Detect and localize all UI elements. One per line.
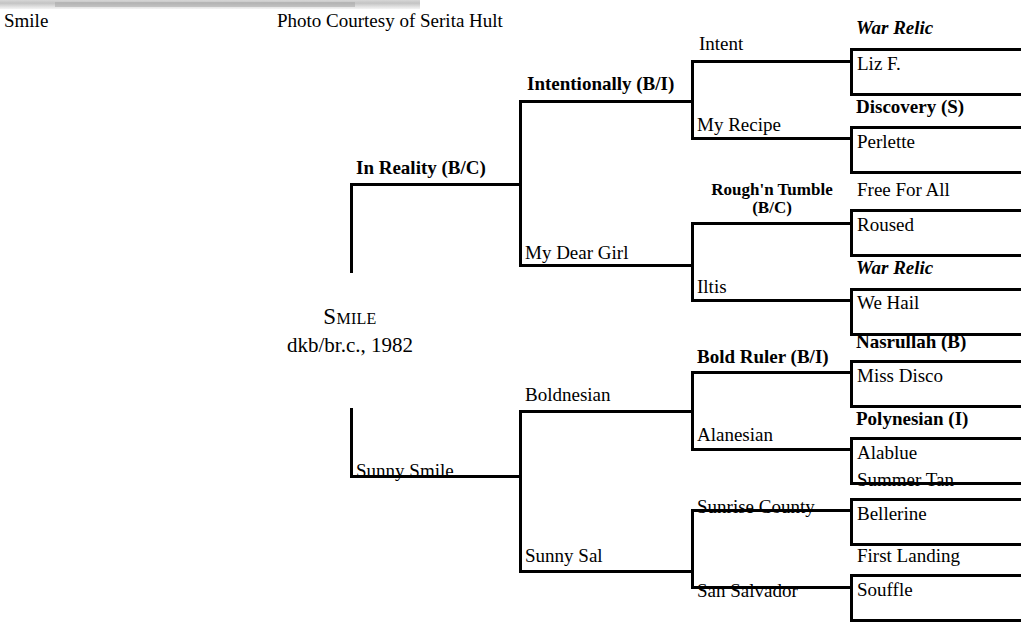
gen4-liz-f: Liz F. bbox=[857, 54, 901, 74]
gen4-edge-5 bbox=[850, 360, 853, 408]
subject-details: dkb/br.c., 1982 bbox=[255, 332, 445, 358]
gen3-bar-roughntumble bbox=[691, 222, 853, 225]
gen4-edge-2 bbox=[850, 126, 853, 174]
gen4-nasrullah: Nasrullah (B) bbox=[856, 332, 966, 352]
gen3-roughn-tumble-line1: Rough'n Tumble bbox=[711, 180, 832, 199]
gen4-polynesian: Polynesian (I) bbox=[856, 409, 968, 429]
gen4-rule-6a bbox=[850, 437, 1021, 440]
gen2-upper-bracket bbox=[519, 100, 522, 267]
gen1-bottom-stem bbox=[350, 408, 353, 478]
gen3-alanesian: Alanesian bbox=[697, 425, 773, 445]
gen3-bracket-4 bbox=[691, 509, 694, 589]
gen3-my-recipe: My Recipe bbox=[697, 115, 781, 135]
gen4-miss-disco: Miss Disco bbox=[857, 366, 943, 386]
gen4-rule-5a bbox=[850, 360, 1021, 363]
gen4-war-relic-2: War Relic bbox=[856, 258, 933, 278]
gen3-bar-iltis bbox=[691, 299, 853, 302]
gen4-edge-8 bbox=[850, 574, 853, 622]
subject-name: Smile bbox=[255, 303, 445, 332]
gen3-intent: Intent bbox=[699, 34, 743, 54]
gen2-my-dear-girl: My Dear Girl bbox=[525, 243, 628, 263]
gen4-rule-4a bbox=[850, 288, 1021, 291]
gen2-boldnesian: Boldnesian bbox=[525, 385, 611, 405]
gen3-roughn-tumble-line2: (B/C) bbox=[752, 198, 792, 217]
gen1-sunny-smile: Sunny Smile bbox=[356, 461, 454, 481]
gen4-summer-tan: Summer Tan bbox=[857, 470, 954, 490]
subject-block: Smile dkb/br.c., 1982 bbox=[255, 303, 445, 358]
scan-smudge-core bbox=[55, 2, 355, 7]
gen4-we-hail: We Hail bbox=[857, 293, 919, 313]
gen4-perlette: Perlette bbox=[857, 132, 915, 152]
gen4-edge-7 bbox=[850, 498, 853, 546]
gen3-bar-intent bbox=[691, 60, 853, 63]
gen4-first-landing: First Landing bbox=[857, 546, 960, 566]
gen4-rule-2a bbox=[850, 126, 1021, 129]
gen1-in-reality: In Reality (B/C) bbox=[356, 158, 486, 178]
gen2-upper-bottom-bar bbox=[519, 264, 694, 267]
gen2-lower-bracket bbox=[519, 410, 522, 573]
gen2-lower-bottom-bar bbox=[519, 570, 694, 573]
gen4-rule-7a bbox=[850, 498, 1021, 501]
gen4-rule-3a bbox=[850, 209, 1021, 212]
gen3-bar-myrecipe bbox=[691, 137, 853, 140]
gen3-roughn-tumble: Rough'n Tumble (B/C) bbox=[693, 181, 851, 217]
gen4-edge-6 bbox=[850, 437, 853, 485]
gen2-intentionally: Intentionally (B/I) bbox=[527, 74, 674, 94]
gen3-bracket-3 bbox=[691, 371, 694, 451]
gen4-alablue: Alablue bbox=[857, 443, 917, 463]
gen4-discovery: Discovery (S) bbox=[856, 97, 964, 117]
gen3-bar-boldruler bbox=[691, 371, 853, 374]
gen4-rule-8a bbox=[850, 574, 1021, 577]
gen4-edge-1 bbox=[850, 48, 853, 96]
gen1-top-stem bbox=[350, 183, 353, 273]
gen3-bar-alanesian bbox=[691, 448, 853, 451]
gen4-edge-4 bbox=[850, 288, 853, 336]
gen4-rule-8b bbox=[850, 619, 1021, 622]
gen3-iltis: Iltis bbox=[697, 277, 727, 297]
gen3-san-salvador: San Salvador bbox=[697, 581, 798, 601]
gen3-bracket-1 bbox=[691, 60, 694, 140]
pedigree-chart: Smile Photo Courtesy of Serita Hult Smil… bbox=[0, 0, 1021, 631]
top-left-caption: Smile bbox=[4, 10, 48, 32]
gen4-roused: Roused bbox=[857, 215, 914, 235]
gen3-sunrise-county: Sunrise County bbox=[697, 497, 815, 517]
gen4-war-relic-1: War Relic bbox=[856, 18, 933, 38]
gen2-lower-top-bar bbox=[519, 410, 694, 413]
gen4-rule-2b bbox=[850, 171, 1021, 174]
gen2-sunny-sal: Sunny Sal bbox=[525, 546, 603, 566]
gen3-bracket-2 bbox=[691, 222, 694, 302]
gen4-rule-1a bbox=[850, 48, 1021, 51]
photo-credit: Photo Courtesy of Serita Hult bbox=[277, 10, 503, 32]
gen2-upper-top-bar bbox=[519, 100, 694, 103]
gen4-free-for-all: Free For All bbox=[857, 180, 950, 200]
gen3-bold-ruler: Bold Ruler (B/I) bbox=[697, 347, 829, 367]
gen4-bellerine: Bellerine bbox=[857, 504, 927, 524]
gen1-top-bar bbox=[350, 183, 522, 186]
gen4-souffle: Souffle bbox=[857, 580, 913, 600]
